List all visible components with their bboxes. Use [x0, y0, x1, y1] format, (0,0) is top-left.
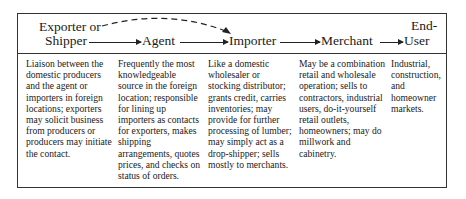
exporter-description: Liaison between the domestic producers a…: [26, 58, 114, 159]
dashed-arrow-exporter-to-importer: [18, 14, 448, 53]
agent-description: Frequently the most knowledgeable source…: [118, 58, 202, 181]
merchant-description: May be a combination retail and wholesal…: [299, 58, 387, 159]
enduser-description: Industrial, construction, and homeowner …: [391, 58, 443, 114]
importer-description: Like a domestic wholesaler or stocking d…: [208, 58, 294, 170]
distribution-chain-table: Exporter or Shipper Agent Importer Merch…: [17, 13, 447, 188]
flow-header: Exporter or Shipper Agent Importer Merch…: [18, 14, 446, 54]
